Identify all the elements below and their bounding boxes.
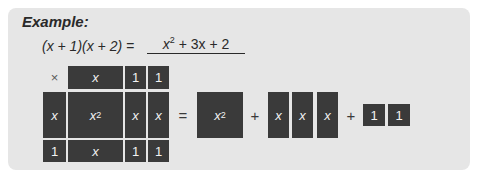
tile-label: x bbox=[214, 108, 221, 123]
grid-row-header-x: x bbox=[43, 92, 66, 138]
x-tile-3: x bbox=[317, 92, 338, 138]
tile-label: x bbox=[132, 108, 139, 123]
tile-label: 1 bbox=[155, 144, 162, 159]
x-tile-1: x bbox=[268, 92, 289, 138]
grid-col-header-x: x bbox=[68, 66, 123, 89]
equation-left: (x + 1)(x + 2) = bbox=[42, 38, 134, 54]
x-tile-2: x bbox=[292, 92, 313, 138]
x-squared-tile: x2 bbox=[197, 92, 243, 138]
equation-answer: x2 + 3x + 2 bbox=[147, 36, 245, 54]
answer-base: x bbox=[163, 36, 170, 52]
plus-sign-2: + bbox=[344, 105, 358, 125]
equals-sign: = bbox=[176, 105, 190, 125]
grid-cell-1a: 1 bbox=[125, 140, 146, 162]
unit-tile-1: 1 bbox=[363, 104, 385, 126]
grid-col-header-1b: 1 bbox=[148, 66, 169, 89]
tile-label: 1 bbox=[132, 144, 139, 159]
grid-cell-x-c: x bbox=[68, 140, 123, 162]
grid-corner-times: × bbox=[43, 66, 66, 89]
unit-tile-2: 1 bbox=[388, 104, 410, 126]
tile-label: 1 bbox=[370, 108, 377, 123]
grid-cell-x-squared: x2 bbox=[68, 92, 123, 138]
tile-label: x bbox=[92, 70, 99, 85]
grid-row-header-1: 1 bbox=[43, 140, 66, 162]
tile-label: 1 bbox=[155, 70, 162, 85]
grid-col-header-1a: 1 bbox=[125, 66, 146, 89]
tile-label: x bbox=[299, 108, 306, 123]
grid-cell-1b: 1 bbox=[148, 140, 169, 162]
example-heading: Example: bbox=[22, 13, 89, 30]
tile-label: 1 bbox=[132, 70, 139, 85]
tile-label: 1 bbox=[395, 108, 402, 123]
equation-expression: (x + 1)(x + 2) = bbox=[42, 38, 134, 54]
answer-rest: + 3x + 2 bbox=[175, 36, 229, 52]
tile-label: x bbox=[51, 108, 58, 123]
tile-label: x bbox=[155, 108, 162, 123]
tile-label: x bbox=[275, 108, 282, 123]
tile-label: x bbox=[92, 144, 99, 159]
grid-cell-x-a: x bbox=[125, 92, 146, 138]
tile-label: 1 bbox=[51, 144, 58, 159]
plus-sign-1: + bbox=[248, 105, 262, 125]
grid-cell-x-b: x bbox=[148, 92, 169, 138]
tile-label: x bbox=[324, 108, 331, 123]
